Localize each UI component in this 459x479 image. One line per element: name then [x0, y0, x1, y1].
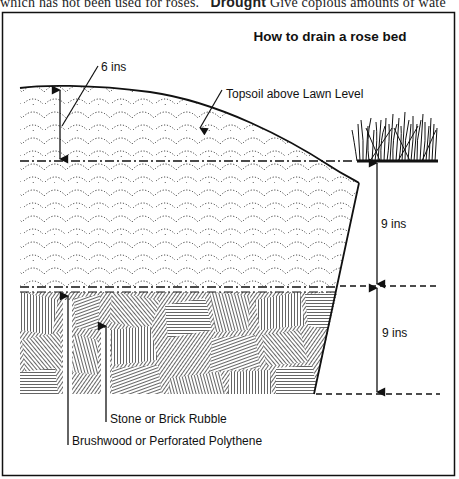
- soil-layer: [20, 80, 365, 290]
- lawn-grass-icon: [352, 112, 438, 161]
- rose-bed-diagram: How to drain a rose bed: [0, 0, 459, 479]
- brushwood-label: Brushwood or Perforated Polythene: [72, 434, 262, 448]
- diagram-title: How to drain a rose bed: [253, 29, 406, 44]
- lower-depth-label: 9 ins: [382, 326, 407, 340]
- topsoil-depth-label: 6 ins: [101, 60, 126, 74]
- upper-depth-label: 9 ins: [381, 217, 406, 231]
- topsoil-label: Topsoil above Lawn Level: [226, 87, 363, 101]
- rubble-label: Stone or Brick Rubble: [110, 412, 227, 426]
